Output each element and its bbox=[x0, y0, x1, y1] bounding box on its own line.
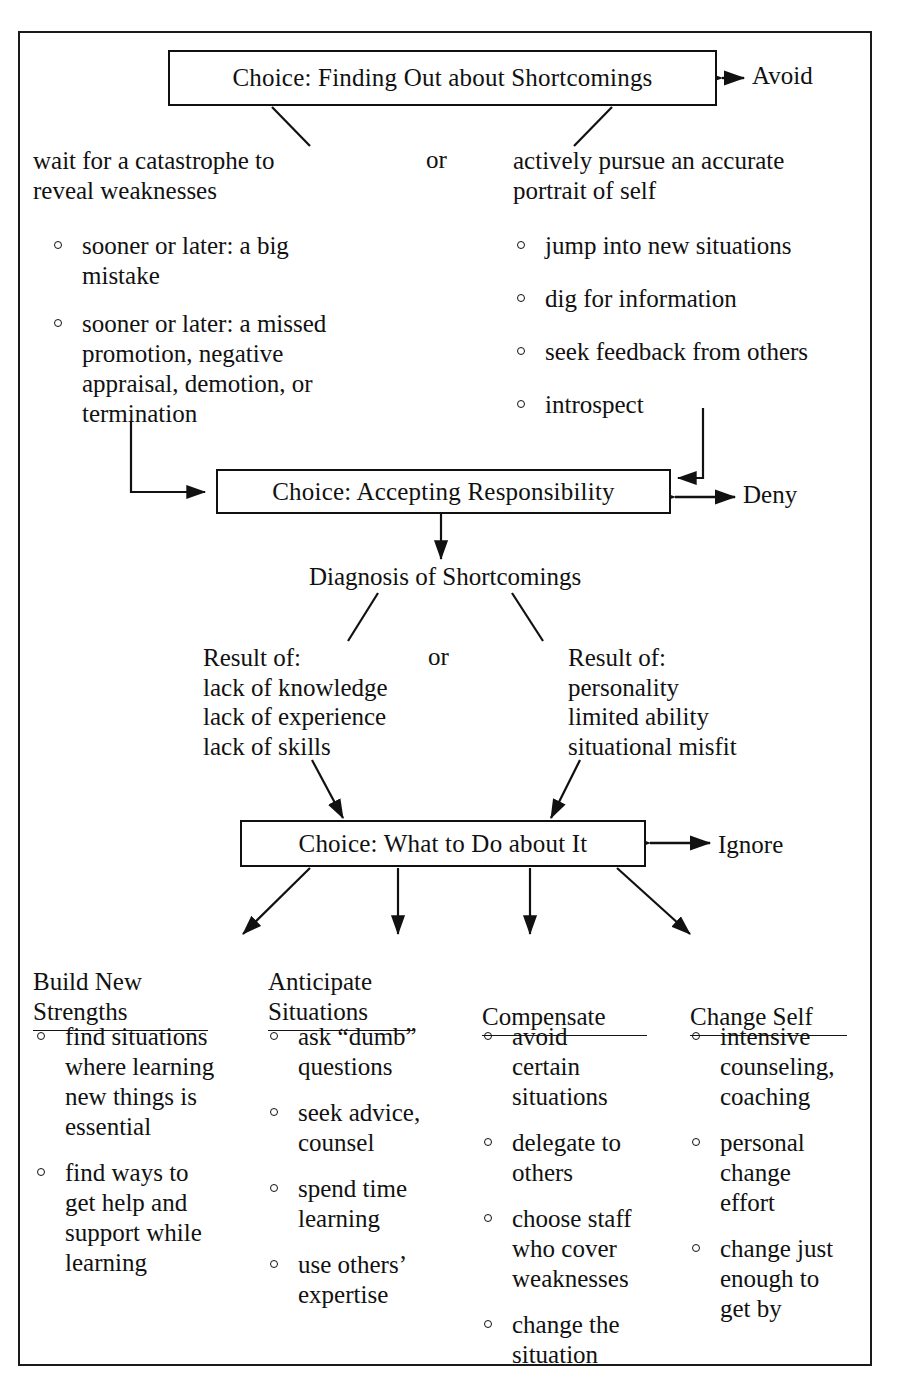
bullet-circle-icon bbox=[270, 1184, 278, 1192]
list-item: use others’ expertise bbox=[268, 1250, 448, 1310]
escape-label-deny: Deny bbox=[743, 481, 797, 509]
diagram-page: Choice: Finding Out about Shortcomings A… bbox=[0, 0, 899, 1396]
diagnosis-left-list: Result of: lack of knowledge lack of exp… bbox=[203, 643, 463, 761]
list-item: sooner or later: a big mistake bbox=[52, 231, 382, 291]
list-item: avoid certain situations bbox=[482, 1022, 662, 1112]
list-item: change just enough to get by bbox=[690, 1234, 870, 1324]
choice-box-what-to-do-label: Choice: What to Do about It bbox=[299, 830, 588, 858]
bullet-circle-icon bbox=[270, 1032, 278, 1040]
list-item: sooner or later: a missed promotion, neg… bbox=[52, 309, 382, 429]
bullet-circle-icon bbox=[484, 1320, 492, 1328]
action-column-bullets-2: avoid certain situations delegate to oth… bbox=[482, 1022, 662, 1370]
bullet-circle-icon bbox=[270, 1108, 278, 1116]
bullet-circle-icon bbox=[484, 1214, 492, 1222]
branch-pursue-bullets: jump into new situations dig for informa… bbox=[515, 231, 875, 420]
action-column-bullets-0: find situations where learning new thing… bbox=[35, 1022, 230, 1278]
or-label-lower: or bbox=[428, 643, 449, 671]
diagnosis-right-list: Result of: personality limited ability s… bbox=[568, 643, 868, 761]
escape-label-avoid: Avoid bbox=[752, 62, 813, 90]
choice-box-finding-out-label: Choice: Finding Out about Shortcomings bbox=[232, 64, 652, 92]
bullet-circle-icon bbox=[517, 400, 525, 408]
bullet-circle-icon bbox=[517, 294, 525, 302]
bullet-circle-icon bbox=[692, 1138, 700, 1146]
bullet-circle-icon bbox=[484, 1138, 492, 1146]
bullet-circle-icon bbox=[692, 1032, 700, 1040]
list-item: spend time learning bbox=[268, 1174, 448, 1234]
list-item: delegate to others bbox=[482, 1128, 662, 1188]
list-item: introspect bbox=[515, 390, 875, 420]
choice-box-accepting-responsibility-label: Choice: Accepting Responsibility bbox=[272, 478, 614, 506]
list-item: choose staff who cover weaknesses bbox=[482, 1204, 662, 1294]
choice-box-accepting-responsibility[interactable]: Choice: Accepting Responsibility bbox=[216, 469, 671, 514]
action-column-bullets-1: ask “dumb” questions seek advice, counse… bbox=[268, 1022, 448, 1310]
list-item: seek feedback from others bbox=[515, 337, 875, 367]
bullet-circle-icon bbox=[270, 1260, 278, 1268]
bullet-circle-icon bbox=[54, 319, 62, 327]
branch-wait-bullets: sooner or later: a big mistake sooner or… bbox=[52, 231, 382, 429]
bullet-circle-icon bbox=[54, 241, 62, 249]
bullet-circle-icon bbox=[484, 1032, 492, 1040]
list-item: dig for information bbox=[515, 284, 875, 314]
list-item: personal change effort bbox=[690, 1128, 870, 1218]
diagnosis-title: Diagnosis of Shortcomings bbox=[309, 563, 581, 591]
list-item: intensive counseling, coaching bbox=[690, 1022, 870, 1112]
choice-box-finding-out[interactable]: Choice: Finding Out about Shortcomings bbox=[168, 50, 717, 106]
list-item: jump into new situations bbox=[515, 231, 875, 261]
choice-box-what-to-do[interactable]: Choice: What to Do about It bbox=[240, 820, 646, 867]
escape-label-ignore: Ignore bbox=[718, 831, 783, 859]
bullet-circle-icon bbox=[37, 1168, 45, 1176]
list-item: find situations where learning new thing… bbox=[35, 1022, 230, 1142]
action-column-bullets-3: intensive counseling, coaching personal … bbox=[690, 1022, 870, 1324]
bullet-circle-icon bbox=[692, 1244, 700, 1252]
list-item: find ways to get help and support while … bbox=[35, 1158, 230, 1278]
list-item: seek advice, counsel bbox=[268, 1098, 448, 1158]
or-label-upper: or bbox=[426, 146, 447, 174]
bullet-circle-icon bbox=[517, 241, 525, 249]
list-item: change the situation bbox=[482, 1310, 662, 1370]
list-item: ask “dumb” questions bbox=[268, 1022, 448, 1082]
bullet-circle-icon bbox=[37, 1032, 45, 1040]
branch-pursue-heading: actively pursue an accurate portrait of … bbox=[513, 146, 883, 205]
bullet-circle-icon bbox=[517, 347, 525, 355]
branch-wait-heading: wait for a catastrophe to reveal weaknes… bbox=[33, 146, 433, 205]
